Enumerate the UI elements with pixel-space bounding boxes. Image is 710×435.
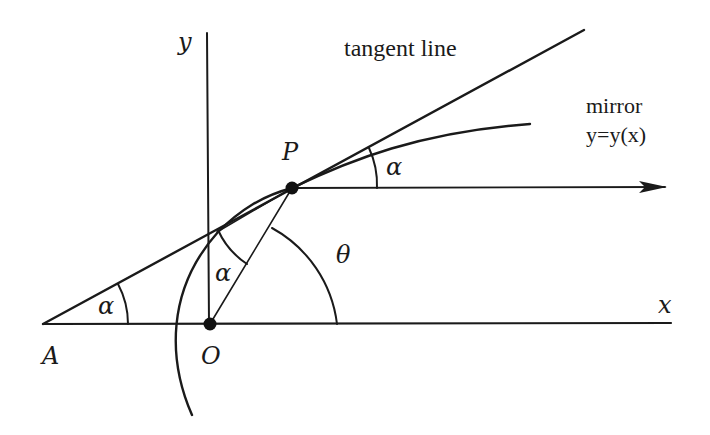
angle-arc-alpha-a: [118, 284, 128, 324]
reflected-ray-arrow: [292, 187, 665, 188]
tangent-line-label: tangent line: [344, 36, 457, 60]
mirror-equation-label: y=y(x): [586, 124, 646, 146]
point-o-label: O: [201, 344, 221, 368]
diagram-canvas: y x tangent line mirror y=y(x) P O A α α…: [0, 0, 710, 435]
geometry: [0, 0, 710, 435]
incident-line: [217, 188, 292, 232]
point-p-dot: [286, 182, 299, 195]
point-p-label: P: [282, 140, 298, 164]
alpha-label-p: α: [386, 155, 402, 179]
x-axis: [43, 323, 671, 324]
x-axis-label: x: [658, 293, 672, 317]
y-axis: [207, 33, 209, 324]
segment-op: [210, 188, 292, 324]
y-axis-label: y: [178, 30, 192, 54]
mirror-label: mirror: [586, 95, 642, 117]
theta-label: θ: [336, 243, 350, 267]
point-a-label: A: [42, 344, 59, 368]
point-o-dot: [204, 318, 217, 331]
alpha-label-a: α: [98, 294, 114, 318]
angle-arc-theta: [272, 228, 337, 324]
alpha-label-o: α: [215, 261, 231, 285]
